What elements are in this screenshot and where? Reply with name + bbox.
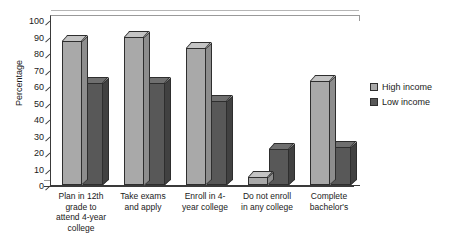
bar-chart: Percentage 0102030405060708090100 Plan i… — [0, 0, 460, 242]
bar-high-income-0 — [62, 41, 82, 185]
bar-side — [330, 76, 336, 185]
bar-side — [289, 143, 295, 185]
bar-side — [227, 95, 233, 185]
plot-area — [50, 21, 360, 186]
bar-face — [310, 81, 330, 185]
y-axis-tick-20: 20 — [34, 148, 44, 158]
y-axis-tick-60: 60 — [34, 82, 44, 92]
x-axis-label-4: Completebachelor's — [292, 191, 366, 212]
x-axis-label-line: bachelor's — [292, 202, 366, 213]
bar-side — [165, 77, 171, 185]
legend-swatch-icon — [370, 98, 378, 106]
bar-side — [144, 31, 150, 185]
chart-legend: High incomeLow income — [370, 82, 458, 112]
bar-face — [186, 48, 206, 185]
legend-swatch-icon — [370, 83, 378, 91]
x-axis-label-line: attend 4-year — [44, 212, 118, 223]
legend-label: High income — [382, 82, 432, 92]
bar-side — [351, 142, 357, 185]
bar-high-income-4 — [310, 81, 330, 185]
legend-item-high-income[interactable]: High income — [370, 82, 458, 92]
bar-high-income-2 — [186, 48, 206, 185]
bar-face — [124, 37, 144, 186]
y-axis-tick-100: 100 — [29, 16, 44, 26]
gridline-100 — [51, 10, 359, 11]
y-axis-tick-70: 70 — [34, 66, 44, 76]
x-axis-category-labels: Plan in 12thgrade toattend 4-yearcollege… — [50, 191, 360, 241]
y-axis-tick-50: 50 — [34, 99, 44, 109]
legend-item-low-income[interactable]: Low income — [370, 97, 458, 107]
y-axis-tick-80: 80 — [34, 49, 44, 59]
bar-face — [248, 177, 268, 185]
y-axis-tick-90: 90 — [34, 33, 44, 43]
y-axis-tick-30: 30 — [34, 132, 44, 142]
x-axis-label-line: college — [44, 223, 118, 234]
bar-side — [103, 77, 109, 185]
y-axis-tick-10: 10 — [34, 165, 44, 175]
bar-face — [62, 41, 82, 185]
bar-high-income-3 — [248, 177, 268, 185]
legend-label: Low income — [382, 97, 430, 107]
bar-side — [206, 43, 212, 185]
bar-high-income-1 — [124, 37, 144, 186]
y-axis-tick-40: 40 — [34, 115, 44, 125]
y-axis-tick-labels: 0102030405060708090100 — [18, 0, 44, 242]
x-axis-label-line: Complete — [292, 191, 366, 202]
bar-side — [82, 36, 88, 185]
